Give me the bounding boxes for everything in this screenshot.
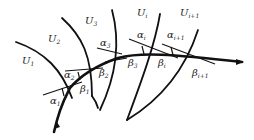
label-u2: U2 xyxy=(48,33,60,45)
label-u1: U1 xyxy=(22,55,34,67)
boundary-curve-2b xyxy=(92,96,98,108)
tick-1 xyxy=(62,88,64,96)
label-beta2: β2 xyxy=(98,67,109,79)
label-alpha3: α3 xyxy=(100,37,111,49)
label-betai1: βi+1 xyxy=(191,67,209,79)
label-u3: U3 xyxy=(85,15,97,27)
trajectory-arrowhead xyxy=(236,59,244,65)
label-beta3: β3 xyxy=(127,57,138,69)
label-alphai1: αi+1 xyxy=(167,29,185,41)
boundary-curve-5 xyxy=(127,30,198,120)
label-alpha1: α1 xyxy=(50,95,61,107)
label-ui: Ui xyxy=(137,7,147,19)
label-alphai: αi xyxy=(137,29,146,41)
label-beta1: β1 xyxy=(79,83,90,95)
label-betai: βi xyxy=(157,57,166,69)
flow-angle-diagram: U1 U2 U3 Ui Ui+1 α1 α2 α3 αi αi+1 β1 β2 … xyxy=(0,0,254,140)
tick-i xyxy=(142,46,144,54)
label-ui1: Ui+1 xyxy=(180,7,199,19)
diagram-svg: U1 U2 U3 Ui Ui+1 α1 α2 α3 αi αi+1 β1 β2 … xyxy=(0,0,254,140)
